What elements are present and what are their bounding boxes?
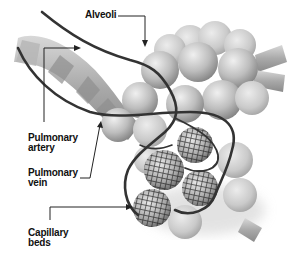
alveoli-diagram: Alveoli Pulmonary artery Pulmonary vein … [0,0,295,258]
label-pulmonary-vein: Pulmonary vein [28,168,78,188]
diagram-artwork [0,0,295,258]
label-alveoli: Alveoli [85,10,116,20]
pulmonary-vein-leader [80,125,100,178]
label-pulmonary-artery: Pulmonary artery [28,133,78,153]
alveoli-leader [118,16,145,42]
label-capillary-beds: Capillary beds [28,228,68,248]
capillary-beds-leader [50,207,128,220]
